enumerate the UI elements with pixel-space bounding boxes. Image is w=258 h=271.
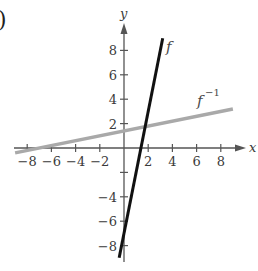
y-axis-label: y bbox=[119, 6, 128, 21]
x-tick-label: 2 bbox=[144, 154, 152, 169]
f-inverse-label: f bbox=[196, 92, 205, 110]
x-tick-label: −4 bbox=[66, 154, 85, 169]
x-tick-label: 8 bbox=[217, 154, 225, 169]
x-tick-label: 4 bbox=[168, 154, 176, 169]
y-tick-label: −6 bbox=[98, 214, 117, 229]
x-tick-label: 6 bbox=[192, 154, 200, 169]
x-axis-arrow-icon bbox=[235, 145, 246, 152]
x-tick-label: −2 bbox=[90, 154, 109, 169]
panel-marker: ) bbox=[0, 7, 7, 32]
x-axis-label: x bbox=[249, 140, 257, 155]
y-tick-label: −8 bbox=[98, 239, 117, 254]
graph-canvas: ) x y −8−6−4−22468−8−6−42468 f f −1 bbox=[0, 0, 258, 271]
y-tick-label: 8 bbox=[109, 43, 117, 58]
f-inverse-superscript: −1 bbox=[205, 87, 220, 98]
y-tick-label: 2 bbox=[109, 117, 117, 132]
x-tick-label: −8 bbox=[18, 154, 37, 169]
y-tick-label: 4 bbox=[109, 92, 117, 107]
f-label: f bbox=[165, 38, 174, 56]
y-tick-label: 6 bbox=[109, 68, 117, 83]
y-tick-label: −4 bbox=[98, 190, 117, 205]
x-tick-label: −6 bbox=[42, 154, 61, 169]
y-axis-arrow-icon bbox=[121, 23, 128, 34]
